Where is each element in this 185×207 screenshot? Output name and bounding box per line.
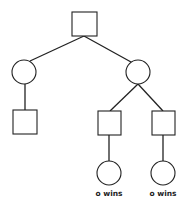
right-leaf-circle-node [151, 161, 175, 185]
left-square-node [13, 110, 37, 134]
edge-right-circle-to-mid-square [110, 84, 138, 111]
edges [25, 36, 163, 161]
right-leaf-label: o wins [149, 189, 177, 198]
edge-root-to-left-circle [30, 36, 84, 61]
root-square-node [72, 12, 97, 36]
left-circle-node [12, 60, 36, 84]
game-tree-diagram: o wins o wins [0, 0, 185, 207]
right-circle-node [126, 60, 150, 84]
mid-leaf-label: o wins [95, 189, 123, 198]
labels: o wins o wins [95, 189, 177, 198]
right-square-node [152, 111, 175, 135]
mid-leaf-circle-node [97, 161, 121, 185]
edge-right-circle-to-right-square [138, 84, 163, 111]
mid-square-node [98, 111, 121, 135]
edge-root-to-right-circle [84, 36, 131, 62]
